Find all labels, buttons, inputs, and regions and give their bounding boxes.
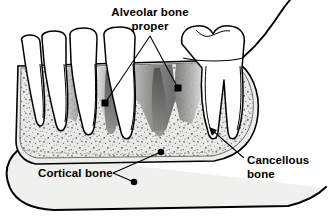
alveolar-endpoint-marker-right [175, 85, 182, 92]
cancellous-bone-label-line2: bone [247, 168, 275, 180]
cortical-bone-label: Cortical bone [38, 167, 113, 179]
cortical-endpoint-marker-upper [158, 149, 165, 156]
teeth-region [21, 26, 244, 139]
anatomical-diagram: Alveolar bone proper Cancellous bone Cor… [0, 0, 330, 216]
cortical-endpoint-marker-lower [131, 179, 138, 186]
alveolar-bone-proper-label-line2: proper [131, 20, 168, 32]
alveolar-bone-proper-label-line1: Alveolar bone [111, 6, 188, 18]
alveolar-endpoint-marker-left [102, 100, 109, 107]
cancellous-bone-label-line1: Cancellous [247, 154, 309, 166]
